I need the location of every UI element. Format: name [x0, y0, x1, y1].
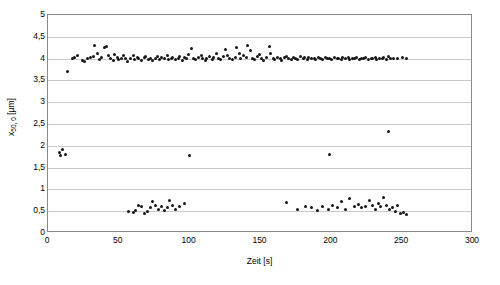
data-point — [391, 206, 394, 209]
gridline — [48, 102, 471, 103]
data-point — [59, 154, 62, 157]
x-tick-label: 150 — [240, 236, 280, 245]
data-point — [262, 59, 265, 62]
y-axis-title-subscript: 50, 0 — [10, 117, 17, 131]
data-point — [239, 57, 242, 60]
data-point — [178, 205, 181, 208]
data-point — [127, 210, 130, 213]
data-point — [93, 44, 96, 47]
gridline — [48, 168, 471, 169]
data-point — [344, 208, 347, 211]
data-point — [374, 208, 377, 211]
data-point — [120, 57, 123, 60]
data-point — [364, 205, 367, 208]
data-point — [96, 52, 99, 55]
data-point — [163, 209, 166, 212]
data-point — [112, 59, 115, 62]
data-point — [204, 59, 207, 62]
data-point — [385, 204, 388, 207]
data-point — [166, 206, 169, 209]
x-axis-title: Zeit [s] — [47, 256, 472, 266]
gridline — [48, 124, 471, 125]
data-point — [187, 53, 190, 56]
data-point — [327, 208, 330, 211]
data-point — [113, 53, 116, 56]
data-point — [61, 148, 64, 151]
data-point — [140, 205, 143, 208]
data-point — [238, 52, 241, 55]
data-point — [328, 153, 331, 156]
data-point — [224, 48, 227, 51]
data-point — [163, 57, 166, 60]
data-point — [253, 58, 256, 61]
data-point — [265, 56, 268, 59]
data-point — [126, 60, 129, 63]
data-point — [215, 52, 218, 55]
data-point — [387, 130, 390, 133]
data-point — [157, 208, 160, 211]
data-point — [64, 153, 67, 156]
x-tick-label: 100 — [169, 236, 209, 245]
data-point — [185, 57, 188, 60]
data-point — [258, 53, 261, 56]
gridline — [48, 146, 471, 147]
data-point — [348, 197, 351, 200]
data-point — [66, 70, 69, 73]
data-point — [181, 59, 184, 62]
data-point — [321, 205, 324, 208]
data-point — [392, 57, 395, 60]
y-tick-label: 4,5 — [1, 31, 45, 40]
data-point — [371, 204, 374, 207]
gridline — [48, 211, 471, 212]
data-point — [246, 44, 249, 47]
data-point — [183, 202, 186, 205]
y-axis-title-base: x — [6, 132, 16, 136]
data-point — [132, 54, 135, 57]
data-point — [331, 204, 334, 207]
data-point — [296, 208, 299, 211]
y-axis-title-unit: [µm] — [6, 98, 16, 117]
data-point — [154, 204, 157, 207]
data-point — [234, 56, 237, 59]
data-point — [83, 60, 86, 63]
data-point — [285, 201, 288, 204]
data-point — [105, 45, 108, 48]
gridline — [48, 189, 471, 190]
data-point — [149, 206, 152, 209]
data-point — [269, 52, 272, 55]
data-point — [235, 46, 238, 49]
x-tick-label: 300 — [452, 236, 492, 245]
data-point — [336, 206, 339, 209]
x-tick-label: 0 — [27, 236, 67, 245]
data-point — [394, 210, 397, 213]
data-point — [296, 58, 299, 61]
data-point — [129, 57, 132, 60]
data-point — [219, 58, 222, 61]
data-point — [360, 206, 363, 209]
data-point — [222, 55, 225, 58]
x-axis-tick-labels: 050100150200250300 — [47, 236, 472, 248]
data-point — [140, 59, 143, 62]
y-tick-label: 4 — [1, 53, 45, 62]
data-point — [146, 210, 149, 213]
data-point — [168, 199, 171, 202]
data-point — [268, 45, 271, 48]
data-point — [379, 205, 382, 208]
data-point — [188, 154, 191, 157]
data-point — [231, 58, 234, 61]
data-point — [151, 200, 154, 203]
y-axis-title: x50, 0 [µm] — [6, 67, 16, 167]
data-point — [76, 54, 79, 57]
x-tick-label: 200 — [310, 236, 350, 245]
data-point — [280, 59, 283, 62]
data-point — [166, 54, 169, 57]
y-tick-label: 5 — [1, 10, 45, 19]
data-point — [316, 209, 319, 212]
gridline — [48, 80, 471, 81]
data-point — [190, 47, 193, 50]
plot-area — [47, 14, 472, 232]
data-point — [401, 56, 404, 59]
data-point — [178, 55, 181, 58]
data-point — [171, 204, 174, 207]
data-point — [310, 206, 313, 209]
